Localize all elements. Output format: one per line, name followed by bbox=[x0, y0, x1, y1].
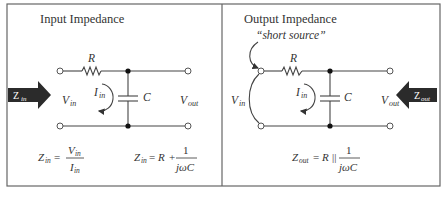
panel-title: Output Impedance bbox=[244, 12, 337, 26]
impedance-diagram: Input Impedance Z in R C I in bbox=[0, 0, 448, 199]
svg-text:R: R bbox=[321, 151, 329, 163]
svg-text:+: + bbox=[169, 151, 175, 163]
short-circuit-wire bbox=[249, 74, 259, 123]
junction-node bbox=[327, 123, 332, 128]
svg-text:jωC: jωC bbox=[337, 161, 358, 173]
short-source-annotation: “short source” bbox=[256, 29, 326, 41]
svg-text:out: out bbox=[299, 156, 310, 165]
capacitor-label: C bbox=[143, 91, 151, 103]
svg-text:out: out bbox=[421, 95, 431, 103]
output-impedance-panel: Output Impedance “short source” Z out bbox=[231, 12, 437, 173]
svg-text:=: = bbox=[313, 151, 319, 163]
capacitor-label: C bbox=[344, 91, 352, 103]
svg-text:in: in bbox=[70, 99, 76, 108]
terminal-out-top bbox=[185, 68, 191, 74]
svg-text:in: in bbox=[74, 166, 80, 175]
zout-arrow-icon: Z out bbox=[396, 81, 437, 109]
equation-zin-rc: Z in = R + 1 jωC bbox=[134, 144, 197, 173]
svg-text:Z: Z bbox=[414, 90, 420, 101]
resistor-symbol bbox=[82, 67, 101, 75]
resistor-label: R bbox=[87, 52, 95, 64]
svg-text:Z: Z bbox=[292, 151, 299, 163]
terminal-in-top bbox=[57, 68, 63, 74]
junction-node bbox=[125, 123, 130, 128]
annotation-arrow-icon bbox=[250, 42, 258, 68]
svg-text:out: out bbox=[188, 99, 199, 108]
svg-text:in: in bbox=[301, 91, 307, 100]
svg-text:in: in bbox=[45, 156, 51, 165]
resistor-symbol bbox=[282, 67, 302, 75]
svg-text:in: in bbox=[141, 156, 147, 165]
terminal-out-bottom bbox=[185, 123, 191, 129]
svg-text:R: R bbox=[157, 151, 165, 163]
resistor-label: R bbox=[289, 52, 297, 64]
svg-text:Z: Z bbox=[38, 151, 45, 163]
terminal-in-bottom bbox=[57, 123, 63, 129]
junction-node bbox=[125, 68, 130, 73]
terminal-in-bottom bbox=[258, 123, 264, 129]
svg-text:||: || bbox=[332, 151, 336, 163]
junction-node bbox=[327, 68, 332, 73]
panel-title: Input Impedance bbox=[40, 12, 125, 26]
svg-text:1: 1 bbox=[346, 144, 352, 156]
terminal-out-top bbox=[387, 68, 393, 74]
svg-text:1: 1 bbox=[183, 144, 189, 156]
circuit-wires bbox=[63, 67, 185, 126]
zin-arrow-icon: Z in bbox=[8, 81, 51, 109]
svg-text:=: = bbox=[54, 151, 60, 163]
svg-text:jωC: jωC bbox=[174, 161, 195, 173]
svg-text:in: in bbox=[21, 95, 27, 103]
terminal-out-bottom bbox=[387, 123, 393, 129]
equation-zout: Z out = R || 1 jωC bbox=[292, 144, 360, 173]
svg-text:in: in bbox=[99, 91, 105, 100]
svg-text:in: in bbox=[239, 99, 245, 108]
input-impedance-panel: Input Impedance Z in R C I in bbox=[8, 12, 199, 175]
circuit-wires bbox=[264, 67, 387, 126]
terminal-in-top bbox=[258, 68, 264, 74]
svg-text:Z: Z bbox=[13, 90, 19, 101]
equation-zin-ratio: Z in = V in I in bbox=[38, 144, 84, 175]
svg-text:in: in bbox=[75, 149, 81, 158]
svg-text:out: out bbox=[389, 99, 400, 108]
svg-text:=: = bbox=[149, 151, 155, 163]
svg-text:Z: Z bbox=[134, 151, 141, 163]
frame bbox=[7, 4, 440, 186]
